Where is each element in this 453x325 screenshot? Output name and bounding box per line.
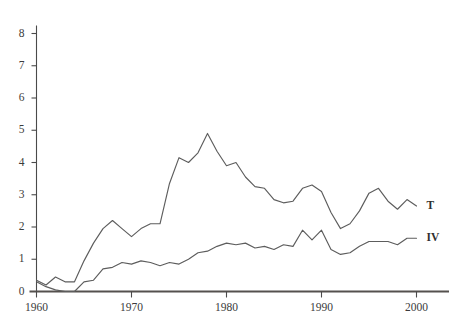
line-chart: 012345678 19601970198019902000 TIV <box>0 0 453 325</box>
series-line-iv <box>37 230 417 291</box>
y-tick-label: 4 <box>9 157 25 169</box>
y-tick-label: 1 <box>9 253 25 265</box>
y-tick-label: 8 <box>9 28 25 40</box>
chart-axes <box>30 26 450 298</box>
chart-plot-area <box>0 0 453 325</box>
x-tick-label: 1960 <box>14 302 60 314</box>
x-tick-label: 1990 <box>299 302 345 314</box>
x-tick-label: 2000 <box>394 302 440 314</box>
x-tick-label: 1970 <box>109 302 155 314</box>
series-label-iv: IV <box>427 232 440 244</box>
y-tick-label: 0 <box>9 286 25 298</box>
y-tick-label: 3 <box>9 189 25 201</box>
x-tick-label: 1980 <box>204 302 250 314</box>
y-tick-label: 2 <box>9 221 25 233</box>
y-tick-label: 6 <box>9 92 25 104</box>
y-tick-label: 5 <box>9 124 25 136</box>
series-label-t: T <box>427 200 435 212</box>
series-line-t <box>37 133 417 285</box>
chart-series-group <box>37 133 417 291</box>
y-tick-label: 7 <box>9 60 25 72</box>
